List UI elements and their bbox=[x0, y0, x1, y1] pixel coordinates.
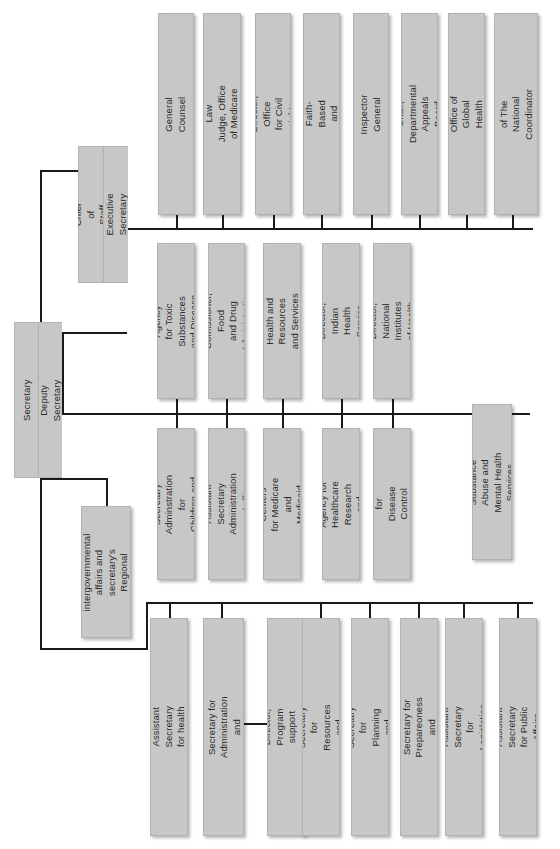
node-executive-secretary-label: Executive Secretary bbox=[104, 193, 129, 235]
node-asst-health[interactable]: Assistant Secretary for health bbox=[150, 618, 188, 836]
connector-stub-asst-preparedness bbox=[418, 602, 420, 619]
node-asst-legislation[interactable]: Assistant Secretary for Legislation bbox=[445, 618, 483, 836]
node-global-health-affairs[interactable]: Director, Office of Global Health Affair… bbox=[448, 13, 485, 215]
connector-stub-hrsa bbox=[282, 399, 284, 414]
node-hrsa[interactable]: Administrator, Health and Resources and … bbox=[263, 243, 301, 399]
connector-staff-division-bus bbox=[126, 228, 533, 230]
node-nih[interactable]: Director, National Institutes of Health bbox=[373, 243, 411, 399]
node-asst-public-affairs[interactable]: Assistant Secretary for Public Affairs bbox=[499, 618, 537, 836]
connector-stub-civil-rights bbox=[273, 215, 275, 229]
node-ahrq[interactable]: Director, Agency for Healthcare Research… bbox=[322, 428, 360, 580]
node-program-support-center[interactable]: Director, Program support center bbox=[267, 618, 305, 836]
node-chief-alj[interactable]: Chief Administrative Law Judge, Office o… bbox=[203, 13, 241, 215]
node-samhsa-label: Administrator, Substance Abuse and Menta… bbox=[472, 451, 512, 513]
node-asst-public-affairs-label: Assistant Secretary for Public Affairs bbox=[499, 706, 537, 748]
node-acf-label: Assistant Secretary Adminstration for Ch… bbox=[157, 474, 195, 533]
node-cdc[interactable]: Director, Centers for Disease Control an… bbox=[373, 428, 411, 580]
node-asst-preparedness-label: Assistant Secretary for Prepareoness and… bbox=[400, 697, 438, 757]
connector-stub-ahrq bbox=[341, 413, 343, 429]
node-cms[interactable]: Administrator, Centers for Medicare and … bbox=[263, 428, 301, 580]
connector-stub-samhsa bbox=[455, 413, 473, 415]
node-inspector-general[interactable]: Inspector General bbox=[353, 13, 389, 215]
node-hrsa-label: Administrator, Health and Resources and … bbox=[263, 290, 301, 352]
node-aoa[interactable]: Assistant Secretary Administration on Ag… bbox=[208, 428, 245, 580]
connector-stub-fda bbox=[226, 399, 228, 414]
connector-deputy-secretary-spine bbox=[62, 332, 64, 414]
node-chief-of-staff[interactable]: Chief of Staff bbox=[78, 146, 104, 283]
node-ihs-label: Director, Indian Health Service bbox=[322, 303, 360, 339]
connector-secretary-to-regional-reps bbox=[40, 478, 108, 480]
node-inspector-general-label: Inspector General bbox=[359, 94, 384, 134]
connector-stub-aoa bbox=[226, 413, 228, 429]
node-asst-admin-mgmt-label: Assistant Secretary for Administration a… bbox=[203, 696, 244, 758]
connector-stub-acf bbox=[176, 413, 178, 429]
connector-stub-ihs bbox=[341, 399, 343, 414]
node-atsdr-label: Administrator, Agency for Toxic Substanc… bbox=[157, 291, 195, 350]
node-fda[interactable]: Comissioner, Food and Drug Administratio… bbox=[208, 243, 245, 399]
connector-stub-national-coordinator bbox=[512, 215, 514, 229]
node-asst-resources-tech-label: Assistant Secretary for Resources and Te… bbox=[302, 702, 340, 751]
connector-asst-admin-to-program-support bbox=[244, 723, 268, 725]
node-deputy-secretary[interactable]: Deputy Secretary bbox=[38, 322, 62, 478]
node-general-counsel-label: General Counsel bbox=[164, 96, 189, 132]
node-regional-representatives-label: Director, intergovernmental affairs and … bbox=[81, 533, 131, 611]
connector-stub-nih bbox=[392, 399, 394, 414]
connector-stub-cms bbox=[282, 413, 284, 429]
connector-stub-appeals-board bbox=[419, 215, 421, 229]
node-asst-planning-eval[interactable]: Assistant Secretary for Planning and Eva… bbox=[351, 618, 389, 836]
node-secretary-label: Secretary bbox=[20, 379, 33, 421]
connector-stub-asst-admin-mgmt bbox=[221, 602, 223, 619]
node-asst-health-label: Assistant Secretary for health bbox=[150, 706, 188, 748]
connector-stub-asst-health bbox=[169, 602, 171, 619]
connector-asst-sec-riser bbox=[40, 648, 147, 650]
connector-assistant-secretary-bus bbox=[146, 602, 533, 604]
node-deputy-secretary-label: Deputy Secretary bbox=[38, 379, 62, 421]
node-samhsa[interactable]: Administrator, Substance Abuse and Menta… bbox=[472, 404, 512, 560]
node-staff-group: Chief of Staff Executive Secretary bbox=[78, 146, 128, 283]
connector-stub-asst-planning-eval bbox=[369, 602, 371, 619]
node-general-counsel[interactable]: General Counsel bbox=[158, 13, 194, 215]
connector-stub-asst-public-affairs bbox=[517, 602, 519, 619]
node-executive-secretary[interactable]: Executive Secretary bbox=[103, 146, 128, 283]
node-global-health-affairs-label: Director, Office of Global Health Affair… bbox=[448, 96, 485, 132]
node-secretary-deputy-group: Secretary Deputy Secretary bbox=[14, 322, 62, 478]
connector-regional-reps-drop bbox=[106, 478, 108, 507]
node-secretary[interactable]: Secretary bbox=[14, 322, 39, 478]
node-asst-admin-mgmt[interactable]: Assistant Secretary for Administration a… bbox=[203, 618, 244, 836]
node-office-civil-rights-label: Director, Office for Civil rights bbox=[255, 96, 291, 132]
connector-stub-cdc bbox=[392, 413, 394, 429]
node-cms-label: Administrator, Centers for Medicare and … bbox=[263, 474, 301, 533]
node-cdc-label: Director, Centers for Disease Control an… bbox=[373, 481, 411, 527]
node-aoa-label: Assistant Secretary Administration on Ag… bbox=[208, 473, 245, 535]
node-office-civil-rights[interactable]: Director, Office for Civil rights bbox=[255, 13, 291, 215]
node-program-support-center-label: Director, Program support center bbox=[267, 708, 305, 745]
connector-stub-global-health bbox=[466, 215, 468, 229]
connector-deputy-secretary-stub bbox=[62, 332, 127, 334]
node-atsdr[interactable]: Administrator, Agency for Toxic Substanc… bbox=[157, 243, 195, 399]
node-fda-label: Comissioner, Food and Drug Administratio… bbox=[208, 290, 245, 352]
connector-asst-sec-down bbox=[146, 602, 148, 650]
connector-stub-asst-legislation bbox=[463, 602, 465, 619]
node-faith-based[interactable]: Director, Center for Faith-Based and Com… bbox=[303, 13, 340, 215]
node-regional-representatives[interactable]: Director, intergovernmental affairs and … bbox=[81, 506, 131, 638]
node-asst-planning-eval-label: Assistant Secretary for Planning and Eva… bbox=[351, 704, 389, 749]
connector-stub-faith-based bbox=[321, 215, 323, 229]
node-national-coordinator-hit[interactable]: National Coordinator, Office of The Nati… bbox=[494, 13, 538, 215]
node-national-coordinator-hit-label: National Coordinator, Office of The Nati… bbox=[494, 88, 538, 141]
connector-stub-atsdr bbox=[176, 399, 178, 414]
node-acf[interactable]: Assistant Secretary Adminstration for Ch… bbox=[157, 428, 195, 580]
node-asst-legislation-label: Assistant Secretary for Legislation bbox=[445, 704, 483, 751]
node-departmental-appeals-board-label: Chair, Departmental Appeals Board bbox=[401, 85, 438, 143]
node-asst-resources-tech[interactable]: Assistant Secretary for Resources and Te… bbox=[302, 618, 340, 836]
node-departmental-appeals-board[interactable]: Chair, Departmental Appeals Board bbox=[401, 13, 438, 215]
connector-stub-chief-alj bbox=[222, 215, 224, 229]
connector-stub-inspector-general bbox=[371, 215, 373, 229]
connector-stub-general-counsel bbox=[176, 215, 178, 229]
org-chart: Secretary Deputy Secretary Chief of Staf… bbox=[0, 0, 560, 849]
node-ihs[interactable]: Director, Indian Health Service bbox=[322, 243, 360, 399]
node-chief-alj-label: Chief Administrative Law Judge, Office o… bbox=[203, 83, 241, 144]
node-asst-preparedness[interactable]: Assistant Secretary for Prepareoness and… bbox=[400, 618, 438, 836]
node-faith-based-label: Director, Center for Faith-Based and Com… bbox=[303, 90, 340, 139]
node-nih-label: Director, National Institutes of Health bbox=[373, 301, 411, 340]
connector-stub-asst-resources-tech bbox=[320, 602, 322, 619]
